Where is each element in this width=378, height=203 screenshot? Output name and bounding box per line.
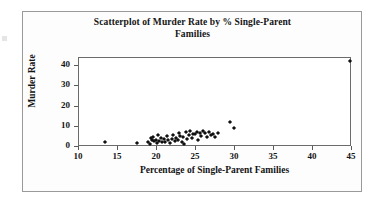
y-tick-mark bbox=[74, 106, 78, 107]
scatter-point bbox=[199, 134, 203, 138]
scatter-point bbox=[205, 135, 209, 139]
x-tick-label: 20 bbox=[144, 151, 168, 161]
y-tick-label: 0 bbox=[48, 140, 70, 150]
x-tick-mark bbox=[273, 146, 274, 150]
x-tick-label: 10 bbox=[66, 151, 90, 161]
scatter-point bbox=[185, 137, 189, 141]
x-tick-mark bbox=[195, 146, 196, 150]
edge-artifact bbox=[2, 36, 7, 41]
y-tick-label: 40 bbox=[48, 59, 70, 69]
scatter-point bbox=[213, 135, 217, 139]
x-tick-mark bbox=[156, 146, 157, 150]
x-tick-label: 30 bbox=[222, 151, 246, 161]
scatter-point bbox=[232, 126, 236, 130]
scatter-point bbox=[216, 131, 220, 135]
scatter-point bbox=[190, 136, 194, 140]
scatter-point bbox=[135, 141, 139, 145]
x-tick-mark bbox=[234, 146, 235, 150]
x-tick-label: 40 bbox=[300, 151, 324, 161]
x-tick-mark bbox=[351, 146, 352, 150]
scatter-point bbox=[228, 120, 232, 124]
scatter-point bbox=[148, 142, 152, 146]
scatter-point bbox=[103, 140, 107, 144]
y-tick-label: 30 bbox=[48, 79, 70, 89]
y-tick-label: 10 bbox=[48, 120, 70, 130]
y-tick-label: 20 bbox=[48, 100, 70, 110]
x-tick-label: 35 bbox=[261, 151, 285, 161]
x-tick-label: 25 bbox=[183, 151, 207, 161]
scatter-plot-area bbox=[78, 57, 351, 146]
scatter-point bbox=[182, 141, 186, 145]
y-tick-mark bbox=[74, 85, 78, 86]
x-tick-mark bbox=[312, 146, 313, 150]
scatter-point bbox=[196, 137, 200, 141]
x-tick-label: 45 bbox=[339, 151, 363, 161]
y-tick-mark bbox=[74, 126, 78, 127]
y-tick-mark bbox=[74, 65, 78, 66]
x-tick-mark bbox=[78, 146, 79, 150]
chart-title: Scatterplot of Murder Rate by % Single-P… bbox=[60, 17, 325, 40]
x-tick-label: 15 bbox=[105, 151, 129, 161]
chart-title-line-2: Families bbox=[175, 29, 210, 39]
x-tick-mark bbox=[117, 146, 118, 150]
y-axis-title: Murder Rate bbox=[27, 41, 37, 121]
chart-title-line-1: Scatterplot of Murder Rate by % Single-P… bbox=[94, 17, 291, 27]
x-axis-title: Percentage of Single-Parent Families bbox=[78, 165, 351, 175]
